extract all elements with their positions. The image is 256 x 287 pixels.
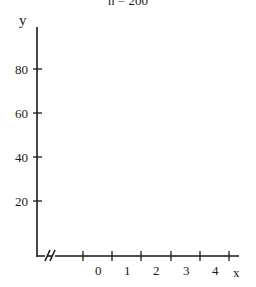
chart-axes [0,0,256,287]
y-tick-label: 20 [15,195,28,208]
x-tick-label: 0 [95,264,102,277]
y-tick-label: 80 [15,63,28,76]
x-tick-label: 3 [183,264,190,277]
y-axis-label: y [19,14,27,27]
y-tick-label: 40 [15,151,28,164]
x-tick-label: 1 [124,264,131,277]
y-tick-label: 60 [15,107,28,120]
x-tick-label: 4 [212,264,219,277]
x-axis-label: x [233,266,240,279]
axis-break-icon [45,250,55,262]
x-tick-label: 2 [153,264,160,277]
